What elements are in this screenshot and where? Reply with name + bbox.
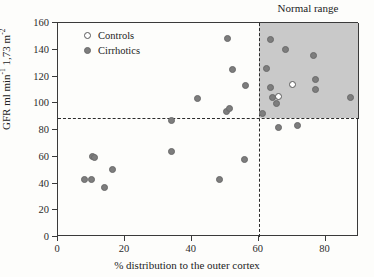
data-point-cirrhotics xyxy=(81,176,88,183)
x-tick-label: 40 xyxy=(186,243,197,254)
y-tick-label: 80 xyxy=(39,124,50,135)
legend-label-cirrhotics: Cirrhotics xyxy=(98,45,140,56)
x-tick-mark xyxy=(258,236,259,241)
y-tick-label: 20 xyxy=(39,204,50,215)
y-tick-mark xyxy=(52,209,57,210)
x-tick-label: 20 xyxy=(119,243,130,254)
data-point-cirrhotics xyxy=(294,122,301,129)
data-point-cirrhotics xyxy=(194,95,201,102)
y-tick-mark xyxy=(52,129,57,130)
y-tick-mark xyxy=(52,22,57,23)
y-tick-label: 100 xyxy=(33,97,49,108)
data-point-cirrhotics xyxy=(267,84,274,91)
y-tick-mark xyxy=(52,156,57,157)
filled-circle-icon xyxy=(84,47,91,54)
normal-range-annotation: Normal range xyxy=(248,2,368,14)
x-tick-label: 0 xyxy=(54,243,59,254)
x-tick-mark xyxy=(124,236,125,241)
data-point-cirrhotics xyxy=(242,82,249,89)
data-point-cirrhotics xyxy=(229,66,236,73)
x-axis-label: % distribution to the outer cortex xyxy=(0,259,374,271)
vertical-threshold xyxy=(259,23,260,237)
data-point-cirrhotics xyxy=(224,35,231,42)
y-axis-label: GFR ml min-1 1,73 m-2 xyxy=(0,29,12,130)
y-tick-mark xyxy=(52,183,57,184)
x-tick-label: 80 xyxy=(319,243,330,254)
legend-label-controls: Controls xyxy=(98,30,134,41)
y-axis-label-main2: 1,73 m xyxy=(0,35,12,68)
y-axis-label-main1: GFR ml min xyxy=(0,74,12,130)
x-tick-label: 60 xyxy=(252,243,263,254)
y-tick-label: 140 xyxy=(33,43,49,54)
y-axis-label-sup2: -2 xyxy=(0,29,7,35)
y-tick-label: 120 xyxy=(33,70,49,81)
data-point-cirrhotics xyxy=(263,65,270,72)
data-point-cirrhotics xyxy=(275,124,282,131)
data-point-cirrhotics xyxy=(312,86,319,93)
y-tick-label: 160 xyxy=(33,17,49,28)
data-point-cirrhotics xyxy=(241,156,248,163)
scatter-plot-figure: Normal range 020406080100120140160020406… xyxy=(0,0,374,277)
legend-item-controls: Controls xyxy=(84,28,140,43)
x-tick-mark xyxy=(325,236,326,241)
x-tick-mark xyxy=(57,236,58,241)
y-tick-mark xyxy=(52,76,57,77)
y-tick-mark xyxy=(52,49,57,50)
data-point-cirrhotics xyxy=(168,117,175,124)
y-axis-label-sup1: -1 xyxy=(0,68,7,74)
x-tick-mark xyxy=(191,236,192,241)
y-tick-label: 60 xyxy=(39,150,50,161)
data-point-cirrhotics xyxy=(101,184,108,191)
y-tick-label: 0 xyxy=(44,231,49,242)
data-point-cirrhotics xyxy=(267,36,274,43)
data-point-controls xyxy=(289,81,296,88)
data-point-cirrhotics xyxy=(259,110,266,117)
open-circle-icon xyxy=(84,32,91,39)
data-point-cirrhotics xyxy=(109,166,116,173)
data-point-cirrhotics xyxy=(88,176,95,183)
data-point-cirrhotics xyxy=(226,105,233,112)
y-tick-mark xyxy=(52,102,57,103)
chart-legend: Controls Cirrhotics xyxy=(84,28,140,58)
data-point-cirrhotics xyxy=(312,76,319,83)
data-point-cirrhotics xyxy=(91,154,98,161)
data-point-cirrhotics xyxy=(168,148,175,155)
y-tick-label: 40 xyxy=(39,177,50,188)
data-point-cirrhotics xyxy=(216,176,223,183)
legend-item-cirrhotics: Cirrhotics xyxy=(84,43,140,58)
horizontal-threshold xyxy=(58,118,359,119)
